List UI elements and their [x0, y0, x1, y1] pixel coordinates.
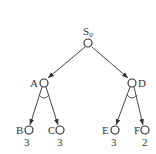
label-s0: S0: [83, 25, 93, 39]
node-s0: [84, 39, 92, 47]
node-c: [56, 126, 64, 134]
label-f: F: [134, 124, 140, 136]
node-b: [25, 126, 33, 134]
value-f: 2: [142, 136, 148, 148]
edge-s0-d: [92, 47, 128, 78]
node-e: [111, 126, 119, 134]
label-a: A: [30, 77, 38, 89]
value-b: 3: [24, 136, 30, 148]
node-a: [40, 79, 48, 87]
edge-d-e: [116, 87, 130, 125]
node-d: [128, 79, 136, 87]
edge-a-b: [30, 87, 42, 125]
edge-s0-a: [48, 47, 85, 78]
value-c: 3: [57, 136, 63, 148]
and-arc-a: [39, 95, 49, 98]
value-e: 3: [111, 136, 117, 148]
label-e: E: [102, 124, 109, 136]
node-f: [141, 126, 149, 134]
label-b: B: [16, 124, 23, 136]
label-d: D: [138, 77, 146, 89]
label-c: C: [48, 124, 55, 136]
edge-a-c: [46, 87, 58, 125]
edge-d-f: [134, 87, 143, 125]
and-or-tree-diagram: S0 A D B C E F 3 3 3 2: [0, 0, 156, 154]
